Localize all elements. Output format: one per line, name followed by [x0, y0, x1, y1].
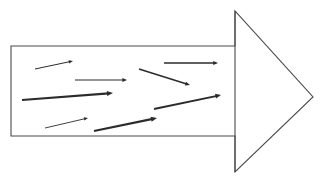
flow-arrow-diagram — [0, 0, 325, 181]
big-arrow-outline — [11, 11, 313, 172]
figure-canvas — [0, 0, 325, 181]
big-arrow-outline-path — [11, 11, 313, 172]
